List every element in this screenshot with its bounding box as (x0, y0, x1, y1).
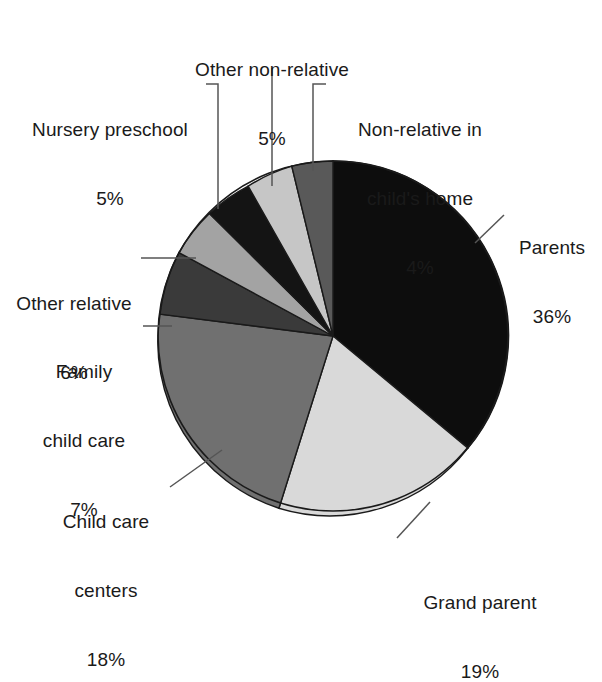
slice-label-nursery-preschool-name: Nursery preschool (14, 118, 206, 141)
slice-label-child-care-centers-line2: centers (42, 579, 170, 602)
slice-label-parents-percent: 36% (504, 305, 600, 328)
slice-label-child-care-centers: Child care centers 18% (42, 464, 170, 682)
leader-line-grand-parent (397, 502, 430, 538)
slice-label-nursery-preschool-percent: 5% (14, 187, 206, 210)
slice-label-family-child-care-line1: Family (26, 360, 142, 383)
slice-label-non-relative-in-childs-home-percent: 4% (330, 256, 510, 279)
slice-label-parents: Parents 36% (504, 190, 600, 374)
slice-label-child-care-centers-line1: Child care (42, 510, 170, 533)
slice-label-grand-parent-name: Grand parent (400, 591, 560, 614)
slice-label-family-child-care-line2: child care (26, 429, 142, 452)
slice-label-grand-parent: Grand parent 19% (400, 545, 560, 682)
slice-label-non-relative-in-childs-home-line1: Non-relative in (330, 118, 510, 141)
slice-label-parents-name: Parents (504, 236, 600, 259)
slice-label-nursery-preschool: Nursery preschool 5% (14, 72, 206, 256)
slice-label-non-relative-in-childs-home-line2: child's home (330, 187, 510, 210)
slice-label-non-relative-in-childs-home: Non-relative in child's home 4% (330, 72, 510, 325)
slice-label-other-relative-name: Other relative (8, 292, 140, 315)
slice-label-child-care-centers-percent: 18% (42, 648, 170, 671)
slice-label-grand-parent-percent: 19% (400, 660, 560, 682)
